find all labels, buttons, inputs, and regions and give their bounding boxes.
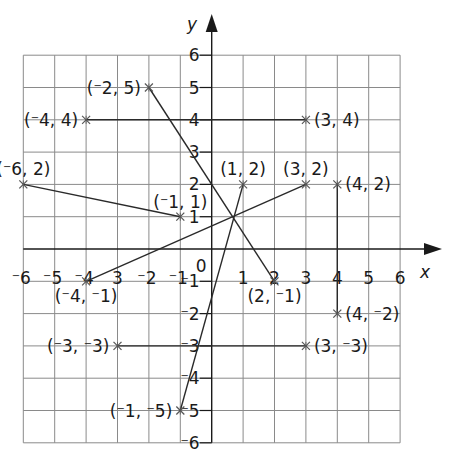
point-label: (−3, −3) [47, 336, 110, 356]
x-axis-arrow-icon [424, 243, 442, 255]
y-tick-label: −4 [180, 368, 199, 388]
x-axis-label: x [419, 262, 431, 282]
coordinate-diagram: xy −6−5−43−2−1123456654321−1−2−3−4−5−60 … [0, 0, 454, 459]
point-label: (−2, 5) [87, 78, 141, 98]
x-tick-label: −5 [43, 268, 62, 288]
point-label: (2, −1) [247, 286, 301, 306]
x-tick-label: −4 [74, 268, 93, 288]
y-axis-label: y [186, 14, 198, 34]
y-tick-label: −6 [180, 433, 199, 453]
x-tick-label: 3 [300, 268, 311, 288]
point-label: (−4, 4) [24, 110, 78, 130]
point-label: (3, −3) [314, 336, 368, 356]
y-tick-label: 5 [189, 78, 200, 98]
point-label: (3, 2) [283, 159, 329, 179]
x-tick-label: 5 [363, 268, 374, 288]
point-label: (3, 4) [314, 110, 360, 130]
x-tick-label: 3 [112, 268, 123, 288]
point-label: (1, 2) [220, 159, 266, 179]
point-label: (4, 2) [345, 174, 391, 194]
x-tick-label: 6 [395, 268, 406, 288]
point-label: (−1, 1) [153, 192, 207, 212]
point-label: (4, −2) [345, 304, 399, 324]
point-label: (−6, 2) [0, 159, 50, 179]
x-tick-label: −6 [12, 268, 31, 288]
origin-label: 0 [196, 256, 207, 276]
y-tick-label: −5 [180, 401, 199, 421]
point-label: (−1, −5) [110, 401, 173, 421]
point-label: (−4, −1) [55, 286, 118, 306]
y-tick-label: 6 [189, 45, 200, 65]
y-tick-label: −2 [180, 304, 199, 324]
coordinate-plane: xy −6−5−43−2−1123456654321−1−2−3−4−5−60 … [0, 0, 454, 459]
x-tick-label: 1 [238, 268, 249, 288]
y-axis-arrow-icon [206, 14, 218, 32]
x-tick-label: −2 [137, 268, 156, 288]
